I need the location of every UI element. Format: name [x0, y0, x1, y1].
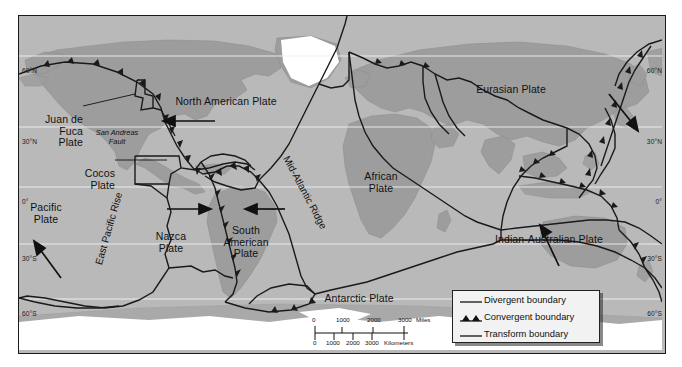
plate-label-antarctic: Antarctic Plate: [314, 293, 404, 305]
plate-label-south-american: South American Plate: [215, 225, 277, 260]
lat-label-right-1: 30°N: [647, 138, 662, 145]
feature-label-san-andreas-fault: San Andreas Fault: [91, 129, 143, 146]
map-legend: Divergent boundary Convergent boundary T…: [452, 290, 600, 343]
plate-label-eurasian: Eurasian Plate: [466, 84, 556, 96]
plate-label-north-american: North American Plate: [166, 96, 286, 108]
legend-label-divergent: Divergent boundary: [484, 294, 566, 305]
scale-km-tick-3: 3000: [365, 339, 379, 346]
plate-label-nazca: Nazca Plate: [147, 231, 195, 254]
scale-km-tick-2: 2000: [346, 339, 360, 346]
transform-boundary-icon: [458, 328, 484, 340]
scale-miles-tick-1: 1000: [336, 316, 350, 323]
scale-bar: 0 1000 2000 3000 Miles 0 1000 2000 3000 …: [312, 316, 440, 346]
scale-km-unit: Kilometers: [384, 339, 413, 346]
scale-miles-unit: Miles: [416, 316, 430, 323]
legend-label-convergent: Convergent boundary: [484, 311, 574, 322]
scale-miles-tick-3: 3000: [398, 316, 412, 323]
legend-item-divergent: Divergent boundary: [453, 291, 599, 308]
lat-label-right-4: 60°S: [647, 310, 662, 317]
plate-label-cocos: Cocos Plate: [67, 168, 115, 191]
convergent-boundary-icon: [458, 311, 484, 323]
scale-km-tick-1: 1000: [326, 339, 340, 346]
scale-miles-tick-0: 0: [312, 316, 315, 323]
legend-item-convergent: Convergent boundary: [453, 308, 599, 325]
plate-label-juan-de-fuca: Juan de Fuca Plate: [21, 114, 83, 149]
legend-item-transform: Transform boundary: [453, 325, 599, 342]
lat-label-right-3: 30°S: [647, 255, 662, 262]
tectonic-plates-map-figure: 60°N 30°N 0° 30°S 60°S 60°N 30°N 0° 30°S…: [0, 0, 682, 367]
lat-label-right-2: 0°: [655, 198, 662, 205]
scale-miles-tick-2: 2000: [367, 316, 381, 323]
lat-label-left-4: 60°S: [22, 310, 37, 317]
lat-label-left-3: 30°S: [22, 255, 37, 262]
plate-label-indian-australian: Indian-Australian Plate: [484, 234, 614, 246]
lat-label-right-0: 60°N: [647, 67, 662, 74]
divergent-boundary-icon: [458, 294, 484, 306]
plate-label-african: African Plate: [353, 171, 409, 194]
lat-label-left-0: 60°N: [22, 67, 37, 74]
legend-label-transform: Transform boundary: [484, 328, 568, 339]
plate-label-pacific: Pacific Plate: [19, 202, 73, 225]
scale-km-tick-0: 0: [313, 339, 316, 346]
